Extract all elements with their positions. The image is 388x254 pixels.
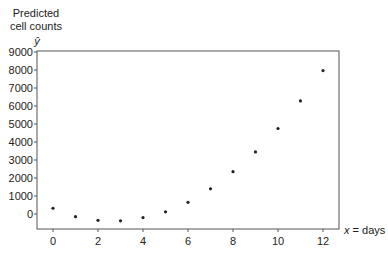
y-axis: 0100020003000400050006000700080009000: [9, 46, 37, 220]
data-points: [51, 69, 324, 222]
data-point: [209, 187, 212, 190]
y-tick-label: 2000: [9, 172, 33, 184]
data-point: [141, 216, 144, 219]
x-tick-label: 10: [272, 235, 284, 247]
y-tick-label: 7000: [9, 82, 33, 94]
data-point: [74, 215, 77, 218]
y-tick-label: 5000: [9, 118, 33, 130]
x-axis-title-rest: = days: [350, 224, 386, 236]
x-axis-title: x = days: [343, 224, 386, 236]
data-point: [231, 170, 234, 173]
data-point: [276, 127, 279, 130]
y-tick-label: 8000: [9, 64, 33, 76]
data-point: [96, 219, 99, 222]
y-tick-label: 9000: [9, 46, 33, 58]
y-axis-title-line2: cell counts: [10, 20, 62, 32]
data-point: [119, 219, 122, 222]
y-tick-label: 3000: [9, 154, 33, 166]
x-tick-label: 4: [140, 235, 146, 247]
x-tick-label: 0: [50, 235, 56, 247]
scatter-chart: Predicted cell counts ŷ 0100020003000400…: [0, 0, 388, 254]
y-tick-label: 4000: [9, 136, 33, 148]
x-axis: 024681012: [50, 229, 329, 247]
x-tick-label: 8: [230, 235, 236, 247]
data-point: [254, 150, 257, 153]
data-point: [164, 210, 167, 213]
data-point: [321, 69, 324, 72]
y-hat-symbol: ŷ: [33, 35, 41, 47]
y-tick-label: 0: [27, 208, 33, 220]
y-tick-label: 1000: [9, 190, 33, 202]
data-point: [186, 201, 189, 204]
data-point: [299, 99, 302, 102]
x-tick-label: 12: [317, 235, 329, 247]
data-point: [51, 207, 54, 210]
x-tick-label: 6: [185, 235, 191, 247]
y-axis-title-line1: Predicted: [13, 7, 59, 19]
x-tick-label: 2: [95, 235, 101, 247]
y-tick-label: 6000: [9, 100, 33, 112]
y-axis-title: Predicted cell counts ŷ: [10, 7, 62, 47]
